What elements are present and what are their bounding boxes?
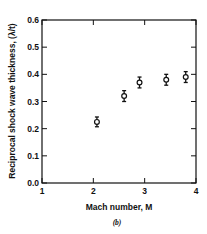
open-circle-marker [95, 119, 100, 124]
y-tick-label: 0.4 [27, 69, 39, 79]
open-circle-marker [137, 80, 142, 85]
y-axis-title: Reciprocal shock wave thickness, (λ/t) [7, 23, 17, 179]
y-axis-ticks: 0.00.10.20.30.40.50.6 [27, 15, 196, 188]
open-circle-marker [164, 77, 169, 82]
y-tick-label: 0.0 [27, 178, 39, 188]
y-tick-label: 0.1 [27, 151, 39, 161]
y-tick-label: 0.5 [27, 42, 39, 52]
data-point [137, 77, 142, 88]
y-tick-label: 0.3 [27, 97, 39, 107]
x-tick-label: 1 [40, 186, 45, 196]
open-circle-marker [183, 75, 188, 80]
plot-frame [42, 20, 196, 183]
data-points [95, 72, 189, 127]
x-tick-label: 3 [142, 186, 147, 196]
data-point [95, 117, 100, 127]
x-axis-ticks: 1234 [40, 20, 199, 196]
x-tick-label: 4 [194, 186, 199, 196]
x-axis-title: Mach number, M [86, 202, 153, 212]
data-point [183, 72, 188, 83]
scatter-chart: 0.00.10.20.30.40.50.6 1234 Mach number, … [0, 0, 207, 234]
open-circle-marker [122, 94, 127, 99]
x-tick-label: 2 [91, 186, 96, 196]
y-tick-label: 0.6 [27, 15, 39, 25]
y-tick-label: 0.2 [27, 124, 39, 134]
data-point [164, 74, 169, 85]
data-point [122, 91, 127, 102]
figure-caption: (b) [113, 218, 122, 227]
